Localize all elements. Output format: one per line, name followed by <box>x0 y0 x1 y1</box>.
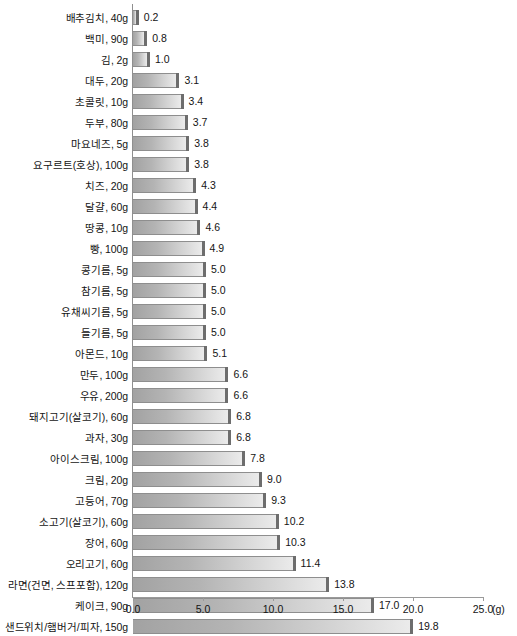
bar-with-value: 19.8 <box>133 619 439 634</box>
category-label: 과자, 30g <box>0 432 128 444</box>
bar-value-label: 5.0 <box>211 283 226 298</box>
bar <box>133 535 277 550</box>
bar-with-value: 5.0 <box>133 283 226 298</box>
bar-area: 10.3 <box>133 532 517 553</box>
category-label: 참기름, 5g <box>0 285 128 297</box>
x-tick-label: 10.0 <box>263 603 283 615</box>
bar-end-cap <box>203 304 206 319</box>
bar-value-label: 11.4 <box>301 556 321 571</box>
bar-row: 참기름, 5g5.0 <box>0 280 517 301</box>
bar-area: 6.8 <box>133 406 517 427</box>
bar-value-label: 6.6 <box>233 388 248 403</box>
bar <box>133 157 186 172</box>
category-label: 아이스크림, 100g <box>0 453 128 465</box>
bar-end-cap <box>197 220 200 235</box>
bar-with-value: 4.9 <box>133 241 224 256</box>
bar-row: 땅콩, 10g4.6 <box>0 217 517 238</box>
bar-row: 라면(건면, 스프포함), 120g13.8 <box>0 574 517 595</box>
bar-with-value: 6.6 <box>133 367 248 382</box>
bar-area: 5.0 <box>133 280 517 301</box>
bar-area: 4.4 <box>133 196 517 217</box>
x-axis-line <box>132 597 484 598</box>
x-tick-label: 25.0 <box>473 603 493 615</box>
bar-end-cap <box>225 367 228 382</box>
bar-value-label: 9.0 <box>267 472 282 487</box>
bar-area: 5.0 <box>133 322 517 343</box>
bar-with-value: 5.1 <box>133 346 227 361</box>
bar-row: 케이크, 90g17.0 <box>0 595 517 616</box>
bar-area: 3.8 <box>133 133 517 154</box>
bar-with-value: 10.3 <box>133 535 306 550</box>
bar-area: 9.0 <box>133 469 517 490</box>
x-tick-mark <box>483 597 484 601</box>
bar-area: 17.0 <box>133 595 517 616</box>
bar-area: 11.4 <box>133 553 517 574</box>
bar-with-value: 3.4 <box>133 94 203 109</box>
bar-value-label: 4.9 <box>210 241 225 256</box>
category-label: 고등어, 70g <box>0 495 128 507</box>
bar <box>133 115 185 130</box>
bar <box>133 472 259 487</box>
bar-row: 콩기름, 5g5.0 <box>0 259 517 280</box>
bar-value-label: 0.8 <box>152 31 167 46</box>
x-axis-unit-label: (g) <box>492 603 505 615</box>
bar <box>133 325 203 340</box>
bar <box>133 220 197 235</box>
category-label: 두부, 80g <box>0 117 128 129</box>
category-label: 달걀, 60g <box>0 201 128 213</box>
category-label: 들기름, 5g <box>0 327 128 339</box>
bar-end-cap <box>147 52 150 67</box>
bar-end-cap <box>195 199 198 214</box>
bar-row: 김, 2g1.0 <box>0 49 517 70</box>
bar-value-label: 0.2 <box>144 10 159 25</box>
category-label: 만두, 100g <box>0 369 128 381</box>
bar-value-label: 1.0 <box>155 52 170 67</box>
bar <box>133 514 276 529</box>
bar-end-cap <box>176 73 179 88</box>
category-label: 콩기름, 5g <box>0 264 128 276</box>
x-tick-label: 0.0 <box>126 603 141 615</box>
category-label: 대두, 20g <box>0 75 128 87</box>
bar-value-label: 4.4 <box>203 199 218 214</box>
bar-row: 아이스크림, 100g7.8 <box>0 448 517 469</box>
bar-row: 아몬드, 10g5.1 <box>0 343 517 364</box>
bar-area: 9.3 <box>133 490 517 511</box>
bar-value-label: 3.7 <box>193 115 208 130</box>
bar-area: 10.2 <box>133 511 517 532</box>
bar-value-label: 4.6 <box>205 220 220 235</box>
bar-end-cap <box>225 388 228 403</box>
bar-row: 초콜릿, 10g3.4 <box>0 91 517 112</box>
category-label: 김, 2g <box>0 54 128 66</box>
category-label: 빵, 100g <box>0 243 128 255</box>
bar-with-value: 6.8 <box>133 430 251 445</box>
bar-area: 0.2 <box>133 7 517 28</box>
bar <box>133 52 147 67</box>
bar-end-cap <box>193 178 196 193</box>
category-label: 케이크, 90g <box>0 600 128 612</box>
bar <box>133 409 228 424</box>
bar-with-value: 6.6 <box>133 388 248 403</box>
category-label: 크림, 20g <box>0 474 128 486</box>
bar <box>133 577 326 592</box>
bar-with-value: 0.2 <box>133 10 158 25</box>
bar <box>133 304 203 319</box>
category-label: 우유, 200g <box>0 390 128 402</box>
bar-value-label: 6.6 <box>233 367 248 382</box>
bar-with-value: 6.8 <box>133 409 251 424</box>
bar-with-value: 7.8 <box>133 451 265 466</box>
bar-row: 달걀, 60g4.4 <box>0 196 517 217</box>
bar-area: 4.9 <box>133 238 517 259</box>
bar-end-cap <box>263 493 266 508</box>
bar <box>133 241 202 256</box>
bar <box>133 367 225 382</box>
bar-with-value: 4.4 <box>133 199 217 214</box>
bar-end-cap <box>203 325 206 340</box>
bar <box>133 262 203 277</box>
category-label: 장어, 60g <box>0 537 128 549</box>
bar-with-value: 5.0 <box>133 304 226 319</box>
bar <box>133 136 186 151</box>
bar-end-cap <box>186 157 189 172</box>
bar-end-cap <box>203 283 206 298</box>
bar-chart: 배추김치, 40g0.2백미, 90g0.8김, 2g1.0대두, 20g3.1… <box>0 0 517 636</box>
bar-with-value: 11.4 <box>133 556 320 571</box>
